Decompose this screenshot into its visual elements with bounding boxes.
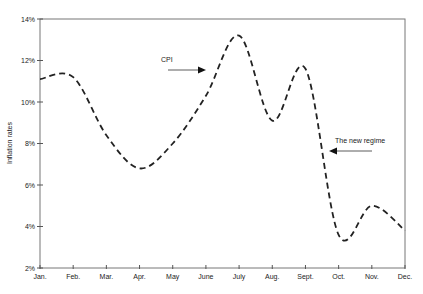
y-tick-label: 4% xyxy=(25,223,35,230)
annotation-new-regime-label: The new regime xyxy=(335,137,385,145)
x-tick-label: Jan. xyxy=(33,273,46,280)
y-tick-label: 14% xyxy=(21,16,35,23)
x-tick-label: Feb. xyxy=(66,273,80,280)
x-tick-label: Aug. xyxy=(265,273,279,281)
annotation-cpi-label: CPI xyxy=(161,56,173,63)
x-tick-label: June xyxy=(198,273,213,280)
x-tick-label: Sept. xyxy=(297,273,313,281)
y-tick-label: 10% xyxy=(21,99,35,106)
x-tick-label: July xyxy=(233,273,246,281)
x-tick-label: May xyxy=(166,273,180,281)
x-tick-label: Apr. xyxy=(133,273,146,281)
arrow-right-icon xyxy=(198,67,206,74)
y-tick-label: 2% xyxy=(25,265,35,272)
x-tick-label: Mar. xyxy=(100,273,114,280)
x-axis: Jan.Feb.Mar.Apr.MayJuneJulyAug.Sept.Oct.… xyxy=(33,265,412,281)
x-tick-label: Oct. xyxy=(332,273,345,280)
cpi-line-chart: 2%4%6%8%10%12%14% Jan.Feb.Mar.Apr.MayJun… xyxy=(0,0,423,294)
arrow-left-icon xyxy=(329,148,337,155)
chart-canvas: 2%4%6%8%10%12%14% Jan.Feb.Mar.Apr.MayJun… xyxy=(0,0,423,294)
x-tick-label: Nov. xyxy=(365,273,379,280)
y-tick-label: 12% xyxy=(21,57,35,64)
y-tick-label: 6% xyxy=(25,182,35,189)
y-tick-label: 8% xyxy=(25,140,35,147)
x-tick-label: Dec. xyxy=(398,273,412,280)
annotations: CPIThe new regime xyxy=(161,56,385,155)
y-axis-label: Inflation rates xyxy=(6,121,13,164)
